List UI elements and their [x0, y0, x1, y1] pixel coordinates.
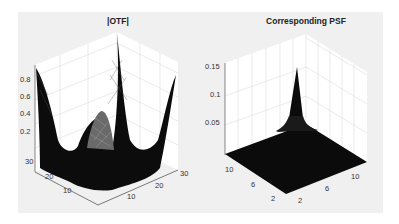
psf-surface-graphic — [0, 0, 399, 224]
psf-y-tick: 2 — [271, 194, 275, 203]
psf-z-tick: 0.05 — [205, 118, 220, 127]
psf-x-tick: 10 — [351, 172, 359, 181]
psf-x-tick: 6 — [325, 184, 329, 193]
psf-title: Corresponding PSF — [250, 16, 362, 26]
psf-z-tick: 0.1 — [210, 90, 220, 99]
psf-y-tick: 6 — [251, 180, 255, 189]
psf-y-tick: 10 — [225, 165, 233, 174]
psf-z-tick: 0.15 — [205, 62, 220, 71]
psf-x-tick: 2 — [298, 196, 302, 205]
